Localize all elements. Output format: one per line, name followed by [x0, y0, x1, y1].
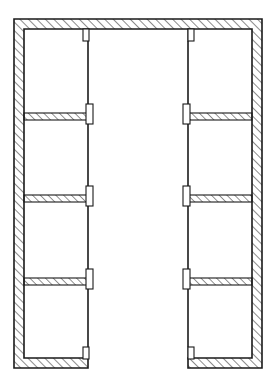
room-r2	[188, 120, 252, 195]
room-r4	[188, 285, 252, 358]
pilaster-stub-right-2	[183, 186, 190, 206]
floor-plan-canvas	[0, 0, 277, 385]
top-exterior-wall	[14, 19, 262, 29]
room-l2	[24, 120, 88, 195]
pilaster-stub-right-3	[183, 269, 190, 289]
pilaster-stub-right-1	[183, 104, 190, 124]
partition-right-2	[188, 195, 252, 202]
floor-plan-drawing	[0, 0, 277, 385]
room-r1	[188, 29, 252, 113]
partition-right-1	[188, 113, 252, 120]
partition-left-2	[24, 195, 88, 202]
partition-left-1	[24, 113, 88, 120]
partition-left-3	[24, 278, 88, 285]
bottom-left-exterior-wall	[14, 358, 88, 368]
pilaster-stub-left-1	[86, 104, 93, 124]
left-exterior-wall	[14, 19, 24, 368]
pilaster-stub-left-bottom	[83, 347, 89, 359]
pilaster-stub-right-bottom	[188, 347, 194, 359]
bottom-right-exterior-wall	[188, 358, 262, 368]
pilaster-stub-left-3	[86, 269, 93, 289]
room-l1	[24, 29, 88, 113]
room-interiors	[24, 29, 252, 385]
partition-right-3	[188, 278, 252, 285]
pilaster-stub-right-top	[188, 29, 194, 41]
room-l4	[24, 285, 88, 358]
pilaster-stub-left-top	[83, 29, 89, 41]
right-exterior-wall	[252, 19, 262, 368]
room-r3	[188, 202, 252, 278]
pilaster-stub-left-2	[86, 186, 93, 206]
room-l3	[24, 202, 88, 278]
central-courtyard	[88, 29, 188, 385]
